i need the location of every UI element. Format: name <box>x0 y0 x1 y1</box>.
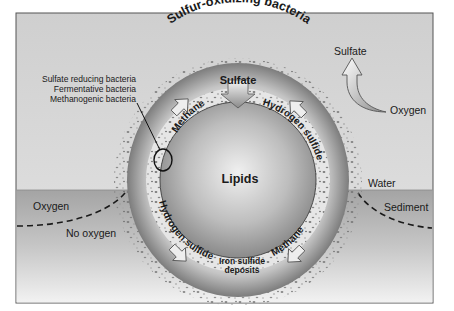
legend-methanogenic: Methanogenic bacteria <box>50 94 136 104</box>
oxygen-left-label: Oxygen <box>33 200 69 212</box>
bacteria-legend: Sulfate reducing bacteria Fermentative b… <box>42 74 136 104</box>
iron-sulfide-label-line2: deposits <box>225 265 260 275</box>
sulfur-cycle-diagram: Sulfur-oxidizing bacteria Hydrogen sulfi… <box>0 0 454 311</box>
sulfate-outer-label: Sulfate <box>334 45 367 57</box>
oxygen-right-label: Oxygen <box>390 104 426 116</box>
water-label: Water <box>368 177 396 189</box>
no-oxygen-label: No oxygen <box>66 227 116 239</box>
lipids-label: Lipids <box>222 172 259 186</box>
legend-fermentative: Fermentative bacteria <box>54 84 136 94</box>
sulfate-inner-label: Sulfate <box>220 74 257 86</box>
sediment-label: Sediment <box>384 201 428 213</box>
legend-sulfate-reducing: Sulfate reducing bacteria <box>42 74 136 84</box>
